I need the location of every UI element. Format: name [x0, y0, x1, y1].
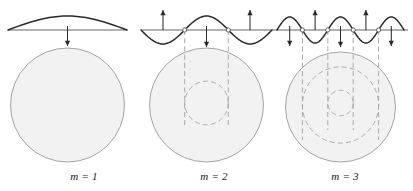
arrow-head: [338, 42, 343, 47]
nodal-point-marker: [183, 28, 187, 32]
arrow-head: [204, 42, 209, 47]
arrow-head: [389, 41, 394, 46]
caption-m3: m = 3: [305, 170, 385, 182]
nodal-point-marker: [326, 28, 330, 32]
membrane-circle: [11, 48, 125, 162]
arrow-head: [287, 41, 292, 46]
nodal-point-marker: [226, 28, 230, 32]
arrow-head: [247, 10, 252, 15]
panel-m3: [272, 10, 408, 162]
membrane-circle: [150, 48, 264, 162]
caption-m2: m = 2: [174, 170, 254, 182]
nodal-point-marker: [377, 28, 381, 32]
nodal-point-marker: [300, 28, 304, 32]
membrane-modes-svg: [0, 0, 413, 191]
nodal-point-marker: [351, 28, 355, 32]
arrow-head: [313, 10, 318, 15]
arrow-head: [160, 10, 165, 15]
panel-m1: [8, 16, 127, 162]
panel-m2: [141, 10, 272, 162]
membrane-modes-figure: m = 1 m = 2 m = 3: [0, 0, 413, 191]
arrow-head: [65, 41, 70, 46]
caption-m1: m = 1: [44, 170, 124, 182]
arrow-head: [363, 10, 368, 15]
